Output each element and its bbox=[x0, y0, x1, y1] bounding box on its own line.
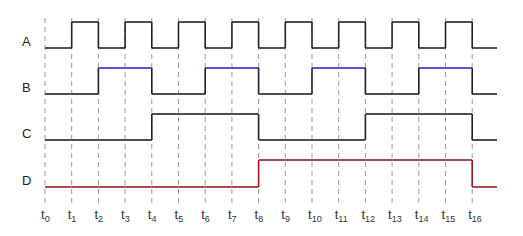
signal-label-C: C bbox=[22, 126, 31, 141]
time-label-t8: t8 bbox=[255, 207, 264, 224]
signal-label-B: B bbox=[22, 80, 31, 95]
time-label-t6: t6 bbox=[201, 207, 210, 224]
waveform-B bbox=[45, 68, 497, 94]
time-label-t9: t9 bbox=[281, 207, 290, 224]
time-axis-labels: t0t1t2t3t4t5t6t7t8t9t10t11t12t13t14t15t1… bbox=[41, 207, 482, 224]
time-label-t5: t5 bbox=[175, 207, 184, 224]
signal-labels: ABCD bbox=[22, 34, 31, 188]
signal-waveforms bbox=[45, 22, 497, 187]
time-label-t12: t12 bbox=[361, 207, 375, 224]
time-label-t16: t16 bbox=[468, 207, 482, 224]
waveform-C bbox=[45, 114, 497, 140]
waveform-D bbox=[45, 160, 497, 187]
signal-label-A: A bbox=[22, 34, 31, 49]
time-label-t4: t4 bbox=[148, 207, 157, 224]
time-label-t2: t2 bbox=[94, 207, 103, 224]
time-label-t7: t7 bbox=[228, 207, 237, 224]
time-label-t14: t14 bbox=[415, 207, 429, 224]
time-label-t13: t13 bbox=[388, 207, 402, 224]
time-label-t11: t11 bbox=[335, 207, 348, 224]
time-label-t1: t1 bbox=[68, 207, 77, 224]
time-label-t15: t15 bbox=[442, 207, 456, 224]
signal-label-D: D bbox=[22, 173, 31, 188]
waveform-A bbox=[45, 22, 497, 48]
time-label-t0: t0 bbox=[41, 207, 50, 224]
time-label-t3: t3 bbox=[121, 207, 130, 224]
time-label-t10: t10 bbox=[308, 207, 322, 224]
timing-diagram: ABCD t0t1t2t3t4t5t6t7t8t9t10t11t12t13t14… bbox=[0, 0, 523, 236]
